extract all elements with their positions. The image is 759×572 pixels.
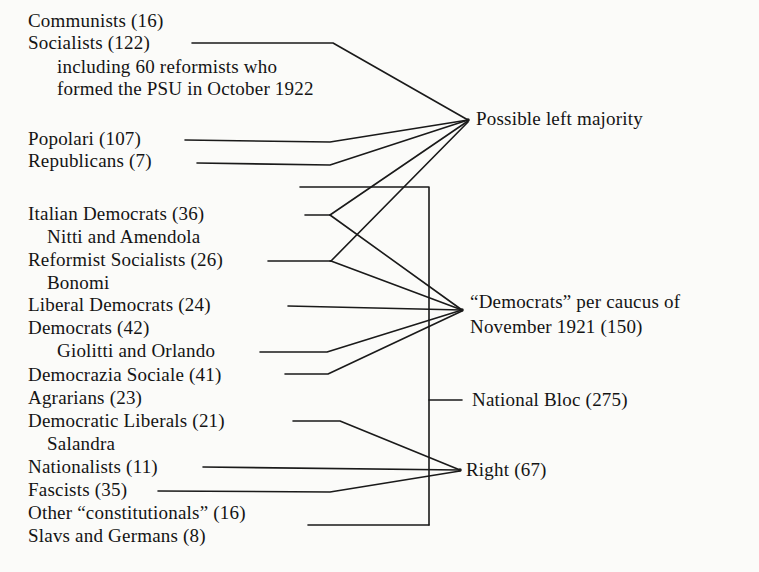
group-right: Right (67) bbox=[466, 459, 547, 481]
connector-democrazia-sociale-to-democrats-caucus bbox=[285, 311, 462, 374]
connector-italian-democrats-to-democrats-caucus bbox=[330, 215, 462, 310]
entry-agrarians: Agrarians (23) bbox=[28, 387, 142, 409]
connector-democratic-liberals-to-right bbox=[293, 421, 460, 470]
entry-democrazia-sociale: Democrazia Sociale (41) bbox=[28, 364, 221, 386]
group-democrats-caucus-line2: November 1921 (150) bbox=[470, 316, 643, 338]
bracket-national-bloc bbox=[300, 187, 429, 525]
group-national-bloc: National Bloc (275) bbox=[472, 389, 628, 411]
connector-giolitti-orlando-to-democrats-caucus bbox=[260, 310, 462, 352]
node-possible-left-majority bbox=[466, 118, 470, 122]
connector-liberal-democrats-to-democrats-caucus bbox=[288, 306, 462, 310]
entry-democrats: Democrats (42) bbox=[28, 317, 150, 339]
entry-popolari: Popolari (107) bbox=[28, 128, 141, 150]
connector-fascists-to-right bbox=[158, 471, 460, 492]
entry-socialists-note-2: formed the PSU in October 1922 bbox=[57, 78, 314, 100]
entry-giolitti-and-orlando: Giolitti and Orlando bbox=[57, 340, 215, 362]
entry-bonomi: Bonomi bbox=[47, 272, 109, 294]
connector-reformist-socialists-to-democrats-caucus bbox=[331, 261, 462, 310]
entry-nationalists: Nationalists (11) bbox=[28, 456, 158, 478]
entry-salandra: Salandra bbox=[47, 433, 115, 455]
connector-reformist-socialists-to-left-majority bbox=[331, 122, 468, 261]
entry-republicans: Republicans (7) bbox=[28, 150, 152, 172]
group-possible-left-majority: Possible left majority bbox=[476, 108, 643, 130]
entry-democratic-liberals: Democratic Liberals (21) bbox=[28, 410, 225, 432]
entry-communists: Communists (16) bbox=[28, 10, 163, 32]
entry-italian-democrats: Italian Democrats (36) bbox=[28, 203, 204, 225]
node-democrats-caucus bbox=[460, 308, 464, 312]
connector-italian-democrats-to-left-majority bbox=[330, 121, 468, 215]
connector-popolari-to-left-majority bbox=[185, 120, 468, 142]
entry-slavs-and-germans: Slavs and Germans (8) bbox=[28, 525, 206, 547]
entry-socialists-note-1: including 60 reformists who bbox=[57, 56, 277, 78]
bloc-diagram-page: Communists (16) Socialists (122) includi… bbox=[0, 0, 759, 572]
entry-socialists: Socialists (122) bbox=[28, 32, 150, 54]
connector-nationalists-to-right bbox=[203, 467, 460, 470]
group-democrats-caucus-line1: “Democrats” per caucus of bbox=[470, 291, 680, 313]
node-right bbox=[458, 468, 462, 472]
entry-nitti-and-amendola: Nitti and Amendola bbox=[47, 226, 200, 248]
connector-republicans-to-left-majority bbox=[197, 120, 468, 165]
entry-reformist-socialists: Reformist Socialists (26) bbox=[28, 249, 223, 271]
entry-fascists: Fascists (35) bbox=[28, 479, 127, 501]
entry-liberal-democrats: Liberal Democrats (24) bbox=[28, 294, 211, 316]
entry-other-constitutionals: Other “constitutionals” (16) bbox=[28, 502, 246, 524]
